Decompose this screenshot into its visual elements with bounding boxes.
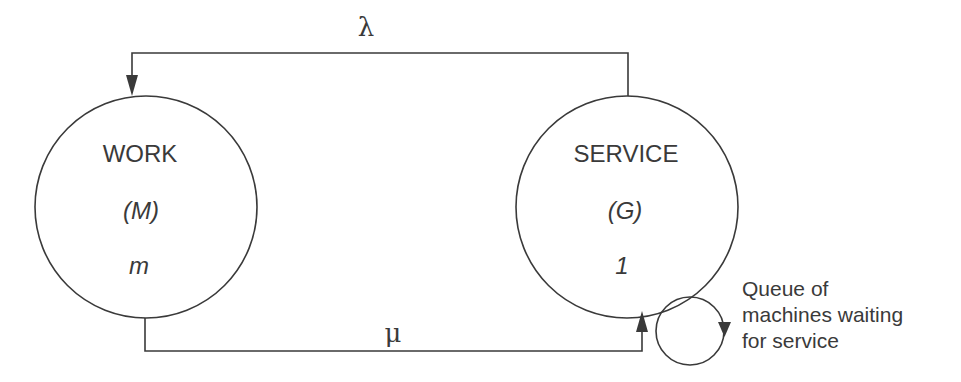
loop-arrow-icon	[718, 322, 731, 337]
arrow-down-icon	[126, 75, 138, 96]
service-title: SERVICE	[574, 142, 679, 166]
work-distribution: (M)	[123, 199, 159, 223]
work-count: m	[129, 254, 149, 278]
work-title: WORK	[103, 142, 178, 166]
queue-label: Queue of machines waiting for service	[742, 276, 903, 354]
queue-label-line-1: Queue of	[742, 276, 903, 302]
lambda-label: λ	[358, 14, 374, 40]
arrow-up-icon	[636, 311, 648, 332]
service-count: 1	[615, 254, 628, 278]
queue-label-line-2: machines waiting	[742, 302, 903, 328]
service-distribution: (G)	[608, 199, 643, 223]
queue-loop	[656, 297, 731, 365]
edge-lambda	[126, 53, 628, 96]
queue-label-line-3: for service	[742, 328, 903, 354]
mu-label: μ	[385, 320, 402, 346]
